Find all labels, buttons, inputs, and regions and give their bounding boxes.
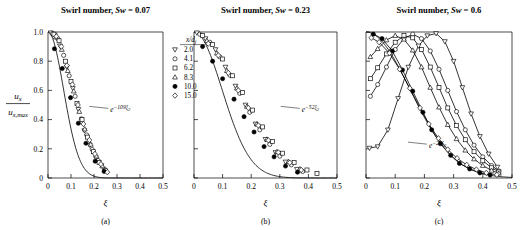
data-point-marker-triangle-down bbox=[469, 112, 474, 116]
equation-annotation-b: e−52ξ2 bbox=[281, 104, 320, 114]
x-tick-label: 0.2 bbox=[420, 182, 430, 191]
panel-title-a: Swirl number, Sw = 0.07 bbox=[61, 5, 151, 15]
data-point-marker-circle bbox=[481, 155, 485, 159]
x-tick-label: 0.4 bbox=[478, 182, 488, 191]
data-point-marker-circle bbox=[380, 36, 384, 40]
data-point-marker-square bbox=[455, 123, 459, 127]
data-point-marker-circle bbox=[221, 77, 225, 81]
data-point-marker-square bbox=[481, 159, 485, 163]
x-tick-label: 0.5 bbox=[158, 182, 168, 191]
data-point-marker-square bbox=[305, 168, 309, 172]
data-point-marker-triangle-down bbox=[396, 97, 401, 101]
data-point-marker-triangle-down bbox=[386, 128, 391, 132]
data-point-marker-circle bbox=[201, 45, 205, 49]
chart-svg-b: Swirl number, Sw = 0.2300.10.20.30.40.5ξ… bbox=[180, 0, 352, 230]
panel-label-a: (a) bbox=[101, 217, 110, 226]
panel-title-c: Swirl number, Sw = 0.6 bbox=[397, 5, 483, 15]
svg-text:ux: ux bbox=[14, 91, 22, 102]
data-point-marker-circle bbox=[262, 145, 266, 149]
data-point-marker-circle bbox=[173, 57, 177, 61]
data-series-4.1 bbox=[51, 31, 107, 171]
figure-container: Swirl number, Sw = 0.0700.10.20.30.40.50… bbox=[0, 0, 530, 230]
data-point-marker-triangle-up bbox=[454, 136, 459, 140]
data-series-4.1 bbox=[198, 32, 305, 173]
data-series-6.2 bbox=[52, 32, 108, 173]
data-point-marker-square bbox=[281, 151, 285, 155]
series-curve bbox=[370, 36, 498, 172]
data-series-group-c bbox=[367, 32, 501, 178]
y-tick-label: 0.2 bbox=[34, 145, 44, 154]
data-point-marker-circle bbox=[242, 115, 246, 119]
svg-text:Swirl number, Sw = 0.23: Swirl number, Sw = 0.23 bbox=[221, 5, 310, 15]
data-point-marker-triangle-down bbox=[442, 40, 447, 44]
data-point-marker-triangle-up bbox=[384, 38, 389, 42]
data-point-marker-triangle-up bbox=[393, 33, 398, 37]
data-series-2.0 bbox=[194, 31, 299, 172]
x-axis-ticks-b: 00.10.20.30.40.5 bbox=[192, 174, 342, 191]
data-point-marker-circle bbox=[368, 94, 372, 98]
data-point-marker-circle bbox=[62, 53, 66, 57]
x-axis-label: ξ bbox=[437, 198, 441, 208]
chart-panel-c: Swirl number, Sw = 0.600.10.20.30.40.5ξ(… bbox=[352, 0, 530, 230]
data-point-marker-circle bbox=[428, 49, 432, 53]
data-point-marker-triangle-down bbox=[451, 59, 456, 63]
x-tick-label: 0.5 bbox=[332, 182, 342, 191]
data-point-marker-circle bbox=[376, 82, 380, 86]
data-point-marker-square bbox=[376, 66, 380, 70]
x-axis-label: ξ bbox=[104, 198, 108, 208]
data-point-marker-triangle-up bbox=[445, 122, 450, 126]
data-point-marker-square bbox=[315, 172, 319, 176]
data-point-marker-square bbox=[428, 65, 432, 69]
data-point-marker-triangle-up bbox=[65, 68, 70, 72]
data-point-marker-square bbox=[201, 34, 205, 38]
svg-text:ux,max: ux,max bbox=[8, 107, 28, 118]
data-point-marker-square bbox=[251, 108, 255, 112]
chart-svg-a: Swirl number, Sw = 0.0700.10.20.30.40.50… bbox=[0, 0, 180, 230]
data-point-marker-triangle-up bbox=[419, 65, 424, 69]
x-tick-label: 0.4 bbox=[304, 182, 314, 191]
data-point-marker-circle bbox=[60, 66, 64, 70]
data-point-marker-square bbox=[271, 140, 275, 144]
data-point-marker-diamond bbox=[64, 63, 69, 68]
data-point-marker-circle bbox=[437, 67, 441, 71]
data-point-marker-circle bbox=[52, 47, 56, 51]
data-point-marker-circle bbox=[93, 159, 97, 163]
data-point-marker-square bbox=[221, 57, 225, 61]
data-point-marker-square bbox=[446, 106, 450, 110]
y-axis-label: uxux,max bbox=[6, 91, 30, 118]
y-tick-label: 1.0 bbox=[34, 28, 44, 37]
data-series-group-a bbox=[48, 31, 109, 175]
data-point-marker-triangle-down bbox=[460, 86, 465, 90]
x-tick-label: 0.1 bbox=[390, 182, 400, 191]
data-point-marker-circle bbox=[449, 153, 453, 157]
x-tick-label: 0.1 bbox=[218, 182, 228, 191]
svg-text:e−52ξ2: e−52ξ2 bbox=[302, 104, 320, 114]
data-point-marker-circle bbox=[478, 171, 482, 175]
equation-annotation-c: e−22ξ2 bbox=[408, 140, 447, 150]
data-point-marker-triangle-down bbox=[367, 146, 372, 150]
data-point-marker-circle bbox=[76, 121, 80, 125]
x-axis-ticks-c: 00.10.20.30.40.5 bbox=[364, 174, 517, 191]
data-point-marker-circle bbox=[463, 128, 467, 132]
data-point-marker-square bbox=[231, 74, 235, 78]
data-point-marker-square bbox=[463, 138, 467, 142]
x-tick-label: 0.2 bbox=[246, 182, 256, 191]
chart-svg-c: Swirl number, Sw = 0.600.10.20.30.40.5ξ(… bbox=[352, 0, 530, 230]
data-point-marker-square bbox=[261, 125, 265, 129]
x-axis-ticks-a: 00.10.20.30.40.5 bbox=[46, 174, 168, 191]
data-point-marker-square bbox=[411, 36, 415, 40]
data-point-marker-diamond bbox=[81, 121, 86, 126]
x-tick-label: 0.3 bbox=[275, 182, 285, 191]
chart-panel-b: Swirl number, Sw = 0.2300.10.20.30.40.5ξ… bbox=[180, 0, 352, 230]
data-point-marker-square bbox=[368, 77, 372, 81]
data-point-marker-triangle-down bbox=[173, 48, 178, 52]
data-point-marker-circle bbox=[272, 155, 276, 159]
x-tick-label: 0.5 bbox=[507, 182, 517, 191]
data-point-marker-circle bbox=[252, 130, 256, 134]
data-point-marker-square bbox=[57, 39, 61, 43]
svg-text:Swirl number, Sw = 0.07: Swirl number, Sw = 0.07 bbox=[61, 5, 151, 15]
data-point-marker-square bbox=[241, 91, 245, 95]
data-point-marker-triangle-down bbox=[477, 135, 482, 139]
data-point-marker-square bbox=[393, 40, 397, 44]
x-tick-label: 0 bbox=[364, 182, 368, 191]
